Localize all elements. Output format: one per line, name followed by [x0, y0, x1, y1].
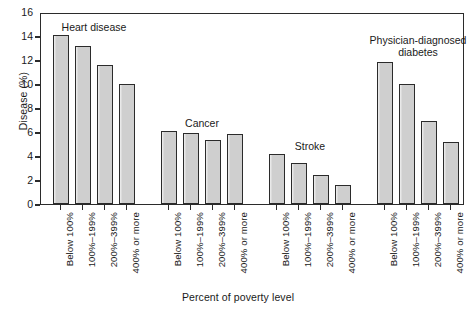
bar [75, 46, 91, 204]
bar [421, 121, 437, 204]
y-tick-label: 14 [21, 30, 33, 42]
bar [161, 131, 177, 204]
x-category-label: Below 100% [172, 212, 183, 290]
bar [377, 62, 393, 204]
x-tick-mark [342, 205, 343, 210]
x-axis-title: Percent of poverty level [0, 291, 476, 303]
x-tick-mark [384, 205, 385, 210]
y-tick-label: 2 [27, 174, 33, 186]
group-label: Stroke [250, 140, 370, 153]
bar [313, 175, 329, 204]
x-tick-mark [234, 205, 235, 210]
x-category-label: 200%–399% [108, 212, 119, 290]
x-tick-mark [60, 205, 61, 210]
bar [53, 35, 69, 204]
x-tick-mark [82, 205, 83, 210]
x-category-label: 100%–199% [410, 212, 421, 290]
x-tick-mark [168, 205, 169, 210]
bar [291, 163, 307, 204]
x-category-label: Below 100% [64, 212, 75, 290]
x-category-label: 100%–199% [302, 212, 313, 290]
x-category-label: Below 100% [280, 212, 291, 290]
x-category-label: Below 100% [388, 212, 399, 290]
x-tick-mark [276, 205, 277, 210]
group-label: Heart disease [34, 21, 154, 34]
bar [205, 140, 221, 204]
x-category-label: 200%–399% [216, 212, 227, 290]
bar [119, 84, 135, 204]
y-tick-label: 6 [27, 126, 33, 138]
x-tick-mark [450, 205, 451, 210]
x-category-label: 100%–199% [86, 212, 97, 290]
x-category-label: 200%–399% [432, 212, 443, 290]
bar [443, 142, 459, 204]
x-category-label: 200%–399% [324, 212, 335, 290]
y-tick-label: 10 [21, 78, 33, 90]
y-tick-label: 16 [21, 6, 33, 18]
bar-chart-figure: Disease (%) 0246810121416 Heart diseaseC… [0, 0, 476, 318]
y-tick-label: 8 [27, 102, 33, 114]
x-tick-mark [320, 205, 321, 210]
x-tick-mark [212, 205, 213, 210]
bar [227, 134, 243, 204]
bar [183, 133, 199, 204]
x-category-label: 100%–199% [194, 212, 205, 290]
y-tick-label: 0 [27, 198, 33, 210]
bar [269, 154, 285, 204]
x-tick-mark [126, 205, 127, 210]
x-tick-mark [298, 205, 299, 210]
plot-area: Heart diseaseCancerStrokePhysician-diagn… [40, 13, 464, 205]
x-tick-mark [190, 205, 191, 210]
x-category-label: 400% or more [346, 212, 357, 290]
x-tick-mark [406, 205, 407, 210]
x-category-label: 400% or more [130, 212, 141, 290]
x-tick-mark [104, 205, 105, 210]
y-tick-label: 4 [27, 150, 33, 162]
x-category-label: 400% or more [238, 212, 249, 290]
x-category-label: 400% or more [454, 212, 465, 290]
y-tick-label: 12 [21, 54, 33, 66]
x-tick-mark [428, 205, 429, 210]
group-label: Cancer [142, 117, 262, 130]
group-label: Physician-diagnosed diabetes [358, 34, 476, 59]
bar [399, 84, 415, 204]
bar [335, 185, 351, 204]
bar [97, 65, 113, 204]
